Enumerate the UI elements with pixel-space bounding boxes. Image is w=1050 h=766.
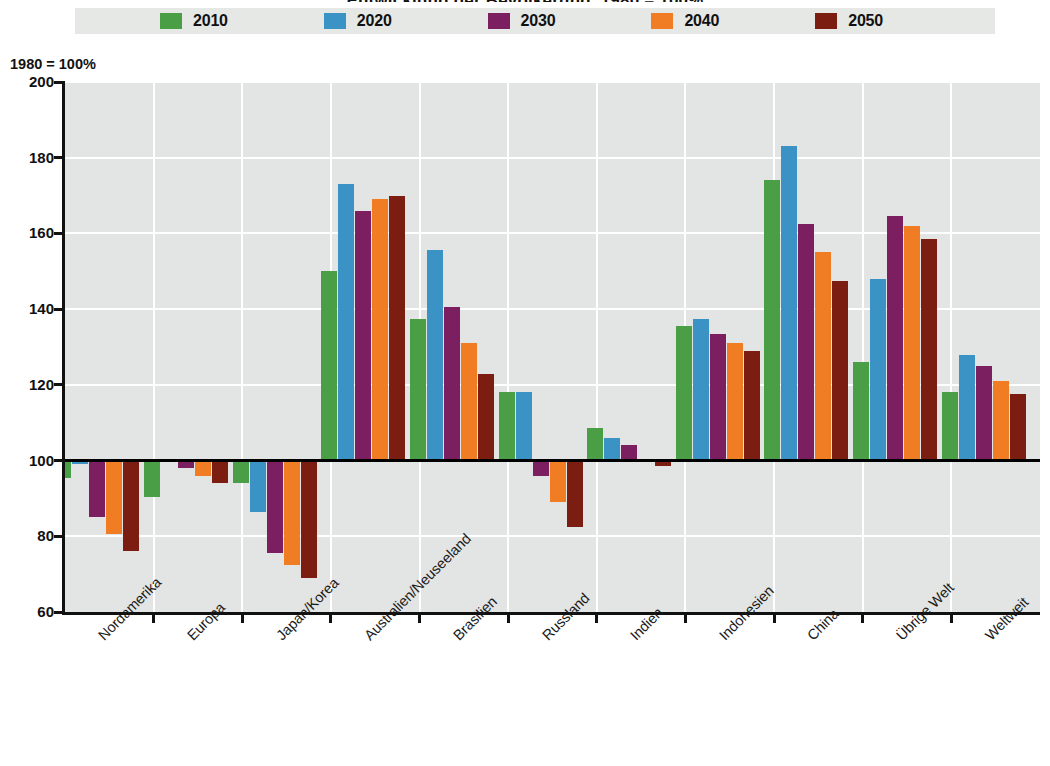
bar-group [764, 82, 848, 612]
bar-2020[interactable] [959, 355, 975, 461]
bar-group [233, 82, 317, 612]
bar-2030[interactable] [798, 224, 814, 461]
x-axis-tick [152, 612, 155, 623]
bar-2020[interactable] [693, 319, 709, 461]
bar-2010[interactable] [942, 392, 958, 460]
x-axis-tick [950, 612, 953, 623]
x-axis-tick [684, 612, 687, 623]
bar-2030[interactable] [976, 366, 992, 461]
bar-2050[interactable] [1010, 394, 1026, 460]
bar-2010[interactable] [853, 362, 869, 460]
bar-2040[interactable] [372, 199, 388, 460]
bar-group [144, 82, 228, 612]
y-axis-tick-label: 120 [8, 376, 54, 393]
legend-swatch-icon [324, 13, 346, 29]
y-axis-tick [54, 81, 65, 84]
legend-label: 2040 [684, 12, 719, 30]
bar-2040[interactable] [993, 381, 1009, 461]
bar-2040[interactable] [284, 461, 300, 565]
legend-swatch-icon [160, 13, 182, 29]
bar-2030[interactable] [887, 216, 903, 460]
y-axis-tick-label: 100 [8, 452, 54, 469]
bar-2030[interactable] [710, 334, 726, 461]
bar-group [587, 82, 671, 612]
y-axis-tick-label: 80 [8, 527, 54, 544]
bar-2010[interactable] [65, 461, 71, 478]
bar-2050[interactable] [301, 461, 317, 578]
bar-2050[interactable] [744, 351, 760, 461]
x-axis-tick [241, 612, 244, 623]
legend-item-2050[interactable]: 2050 [815, 12, 883, 30]
bar-2050[interactable] [212, 461, 228, 484]
bar-2010[interactable] [764, 180, 780, 460]
bar-2050[interactable] [123, 461, 139, 552]
y-axis-tick [54, 232, 65, 235]
bar-group [410, 82, 494, 612]
y-axis-tick-label: 60 [8, 603, 54, 620]
legend-item-2010[interactable]: 2010 [160, 12, 228, 30]
chart-title: Entwicklung der Bevölkerung, 1980 = 100% [0, 0, 1050, 2]
legend-label: 2050 [848, 12, 883, 30]
bar-group [942, 82, 1026, 612]
bar-2010[interactable] [144, 461, 160, 497]
y-axis-tick [54, 535, 65, 538]
y-axis-tick [54, 611, 65, 614]
bar-2020[interactable] [338, 184, 354, 460]
y-axis-tick-label: 180 [8, 149, 54, 166]
bar-2040[interactable] [550, 461, 566, 503]
y-axis-tick [54, 459, 65, 462]
bar-2040[interactable] [815, 252, 831, 460]
legend-swatch-icon [488, 13, 510, 29]
bar-2010[interactable] [499, 392, 515, 460]
baseline-100 [65, 459, 1040, 462]
bar-2030[interactable] [444, 307, 460, 460]
bar-group [321, 82, 405, 612]
plot-inner [65, 82, 1040, 612]
bar-2040[interactable] [727, 343, 743, 460]
bar-2040[interactable] [106, 461, 122, 535]
bar-2010[interactable] [233, 461, 249, 484]
bar-2030[interactable] [267, 461, 283, 554]
y-axis-tick-label: 200 [8, 73, 54, 90]
chart-legend: 20102020203020402050 [75, 8, 995, 34]
y-axis-tick [54, 156, 65, 159]
bar-2030[interactable] [89, 461, 105, 518]
bar-2010[interactable] [321, 271, 337, 460]
x-axis-tick [595, 612, 598, 623]
bar-2040[interactable] [904, 226, 920, 461]
x-axis-tick [507, 612, 510, 623]
bar-2030[interactable] [533, 461, 549, 476]
bar-2020[interactable] [604, 438, 620, 461]
bar-2040[interactable] [461, 343, 477, 460]
x-axis-tick [418, 612, 421, 623]
plot-area [62, 82, 1040, 615]
bar-2020[interactable] [250, 461, 266, 512]
bar-2050[interactable] [832, 281, 848, 461]
legend-item-2030[interactable]: 2030 [488, 12, 556, 30]
bar-2020[interactable] [516, 392, 532, 460]
bar-2050[interactable] [389, 196, 405, 461]
x-axis-tick [329, 612, 332, 623]
bar-2020[interactable] [427, 250, 443, 460]
bar-2050[interactable] [478, 374, 494, 461]
bar-group [853, 82, 937, 612]
bar-2010[interactable] [676, 326, 692, 460]
bar-2020[interactable] [781, 146, 797, 460]
bar-2020[interactable] [870, 279, 886, 461]
bar-group [676, 82, 760, 612]
y-axis-tick [54, 308, 65, 311]
bar-2040[interactable] [195, 461, 211, 476]
legend-label: 2010 [193, 12, 228, 30]
bar-2010[interactable] [410, 319, 426, 461]
bar-2030[interactable] [355, 211, 371, 461]
legend-item-2040[interactable]: 2040 [651, 12, 719, 30]
legend-label: 2030 [521, 12, 556, 30]
x-axis-tick [861, 612, 864, 623]
x-axis-tick [773, 612, 776, 623]
legend-swatch-icon [815, 13, 837, 29]
bar-2010[interactable] [587, 428, 603, 460]
bar-2050[interactable] [567, 461, 583, 527]
legend-item-2020[interactable]: 2020 [324, 12, 392, 30]
bar-2050[interactable] [921, 239, 937, 460]
y-axis-tick [54, 383, 65, 386]
